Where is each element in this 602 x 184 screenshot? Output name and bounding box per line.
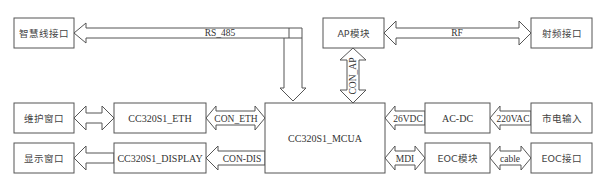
block-eoc-module: EOC模块: [425, 143, 490, 173]
acdc-label: AC-DC: [442, 113, 473, 124]
cable-label: cable: [500, 154, 520, 164]
con-eth-label: CON_ETH: [214, 114, 257, 124]
eoc-module-label: EOC模块: [437, 153, 477, 164]
block-maintenance-window: 维护窗口: [14, 103, 74, 133]
eoc-interface-label: EOC接口: [541, 153, 581, 164]
vdc-label: 26VDC: [393, 114, 423, 124]
display-window-link-arrow: [74, 146, 114, 170]
rs485-label: RS_485: [205, 28, 236, 38]
mcua-label: CC320S1_MCUA: [288, 133, 363, 144]
con-ap-label: CON_AP: [348, 58, 358, 95]
mdi-label: MDI: [396, 154, 414, 164]
maintenance-eth-link-arrow: [74, 106, 114, 130]
block-diagram: RS_485 RF CON_AP CON_ETH CON-DIS 26VDC 2…: [0, 0, 602, 184]
vac-label: 220VAC: [496, 114, 529, 124]
rf-label: RF: [451, 28, 463, 38]
ap-module-label: AP模块: [337, 28, 369, 39]
display-label: CC320S1_DISPLAY: [117, 153, 202, 164]
block-smart-line-interface: 智慧线接口: [14, 18, 74, 48]
block-display: CC320S1_DISPLAY: [114, 143, 206, 173]
block-display-window: 显示窗口: [14, 143, 74, 173]
smart-line-interface-label: 智慧线接口: [19, 28, 69, 39]
rs485-link-arrow: [74, 23, 306, 101]
maintenance-window-label: 维护窗口: [24, 113, 64, 124]
block-mcua: CC320S1_MCUA: [265, 103, 385, 173]
display-window-label: 显示窗口: [24, 153, 64, 164]
block-rf-interface: 射频接口: [531, 18, 592, 48]
block-acdc: AC-DC: [425, 103, 490, 133]
block-eth: CC320S1_ETH: [114, 103, 206, 133]
mains-input-label: 市电输入: [542, 113, 582, 124]
con-dis-label: CON-DIS: [223, 154, 262, 164]
block-mains-input: 市电输入: [531, 103, 592, 133]
block-ap-module: AP模块: [323, 18, 384, 48]
eth-label: CC320S1_ETH: [128, 113, 191, 124]
rf-interface-label: 射频接口: [542, 28, 582, 39]
block-eoc-interface: EOC接口: [531, 143, 592, 173]
